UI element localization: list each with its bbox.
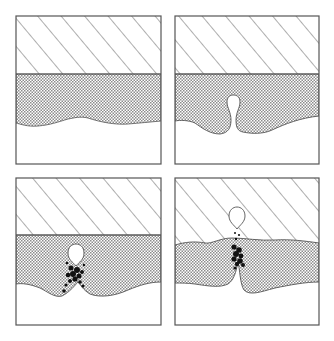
- panel-stage-4: [175, 178, 319, 293]
- hatched-top-layer: [16, 178, 161, 235]
- panel-stage-3: [16, 178, 161, 296]
- hatched-top-layer: [16, 16, 161, 74]
- panel-stage-1: [16, 16, 161, 126]
- hatched-top-layer: [175, 16, 319, 74]
- hatched-top-layer: [175, 178, 319, 248]
- figure-canvas: [0, 0, 334, 341]
- crosshatched-layer: [175, 238, 319, 293]
- crosshatched-layer: [16, 74, 161, 126]
- panel-stage-2: [175, 16, 319, 134]
- crosshatched-layer: [175, 74, 319, 134]
- crosshatched-layer: [16, 235, 161, 296]
